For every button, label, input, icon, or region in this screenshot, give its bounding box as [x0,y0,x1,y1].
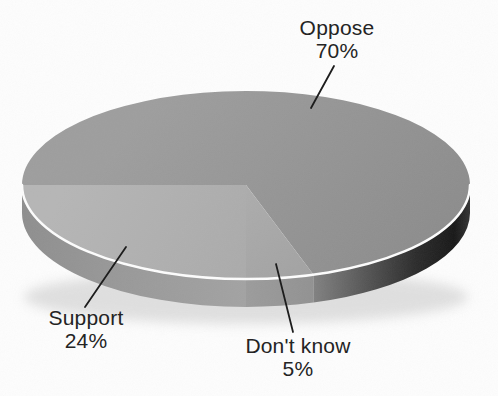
label-oppose: Oppose 70% [267,16,407,62]
label-dont-know-value: 5% [228,357,368,380]
label-oppose-name: Oppose [267,16,407,39]
label-dont-know: Don't know 5% [228,334,368,380]
pie-chart-figure: Oppose 70% Support 24% Don't know 5% [0,0,498,396]
label-support-value: 24% [16,329,156,352]
label-dont-know-name: Don't know [228,334,368,357]
label-oppose-value: 70% [267,39,407,62]
label-support-name: Support [16,306,156,329]
label-support: Support 24% [16,306,156,352]
